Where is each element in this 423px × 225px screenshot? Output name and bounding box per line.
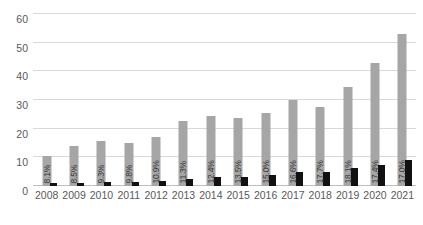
bar-group[interactable]: 13.5% <box>225 14 252 186</box>
bar-subset[interactable] <box>50 183 57 186</box>
bar-value-label: 17.0% <box>398 160 407 183</box>
bar-group[interactable]: 15.0% <box>252 14 279 186</box>
bar-group[interactable]: 10.9% <box>142 14 169 186</box>
bar-group[interactable]: 9.3% <box>88 14 115 186</box>
x-tick-label: 2019 <box>334 190 361 201</box>
bar-group[interactable]: 11.3% <box>170 14 197 186</box>
x-tick-label: 2021 <box>389 190 416 201</box>
bar-series-container: 8.1%8.5%9.3%9.8%10.9%11.3%12.4%13.5%15.0… <box>33 14 416 186</box>
bar-value-label: 9.8% <box>124 164 133 183</box>
x-tick-label: 2013 <box>170 190 197 201</box>
y-axis-labels: 0102030405060 <box>0 14 28 186</box>
bar-value-label: 15.0% <box>261 160 270 183</box>
bar-group[interactable]: 8.5% <box>60 14 87 186</box>
x-tick-label: 2020 <box>361 190 388 201</box>
bar-value-label: 13.5% <box>234 160 243 183</box>
bar-group[interactable]: 17.7% <box>307 14 334 186</box>
x-tick-label: 2012 <box>142 190 169 201</box>
bar-subset[interactable] <box>186 179 193 186</box>
bar-value-label: 16.6% <box>288 160 297 183</box>
x-axis-labels: 2008200920102011201220132014201520162017… <box>33 190 416 201</box>
bar-group[interactable]: 16.6% <box>279 14 306 186</box>
bar-value-label: 9.3% <box>97 164 106 183</box>
bar-value-label: 17.4% <box>370 160 379 183</box>
bar-group[interactable]: 12.4% <box>197 14 224 186</box>
x-tick-label: 2018 <box>307 190 334 201</box>
bar-value-label: 8.5% <box>70 164 79 183</box>
bar-value-label: 18.1% <box>343 160 352 183</box>
x-tick-label: 2009 <box>60 190 87 201</box>
bar-value-label: 8.1% <box>42 164 51 183</box>
bar-value-label: 10.9% <box>152 160 161 183</box>
bar-group[interactable]: 9.8% <box>115 14 142 186</box>
x-tick-label: 2017 <box>279 190 306 201</box>
x-tick-label: 2016 <box>252 190 279 201</box>
bar-value-label: 11.3% <box>179 161 188 183</box>
bar-value-label: 17.7% <box>316 160 325 183</box>
x-tick-label: 2014 <box>197 190 224 201</box>
bar-chart: 0102030405060 8.1%8.5%9.3%9.8%10.9%11.3%… <box>0 0 423 225</box>
plot-area: 8.1%8.5%9.3%9.8%10.9%11.3%12.4%13.5%15.0… <box>33 14 416 186</box>
x-tick-label: 2008 <box>33 190 60 201</box>
bar-value-label: 12.4% <box>206 160 215 183</box>
bar-group[interactable]: 17.4% <box>361 14 388 186</box>
x-tick-label: 2011 <box>115 190 142 201</box>
bar-group[interactable]: 17.0% <box>389 14 416 186</box>
bar-group[interactable]: 18.1% <box>334 14 361 186</box>
x-tick-label: 2010 <box>88 190 115 201</box>
bar-group[interactable]: 8.1% <box>33 14 60 186</box>
x-tick-label: 2015 <box>225 190 252 201</box>
